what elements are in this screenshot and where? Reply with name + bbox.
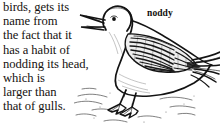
article-body-text: birds, gets its name from the fact that … [3, 0, 115, 114]
body-line: name from [3, 14, 115, 28]
figure-caption: noddy [147, 8, 173, 18]
body-line: birds, gets its [3, 0, 115, 14]
body-line: that of gulls. [3, 99, 115, 113]
body-line: the fact that it [3, 28, 115, 42]
body-line: nodding its head, [3, 57, 115, 71]
body-line: larger than [3, 85, 115, 99]
body-line: which is [3, 71, 115, 85]
body-line: has a habit of [3, 43, 115, 57]
dictionary-page-fragment: noddy birds, gets its name from the fact… [0, 0, 220, 132]
